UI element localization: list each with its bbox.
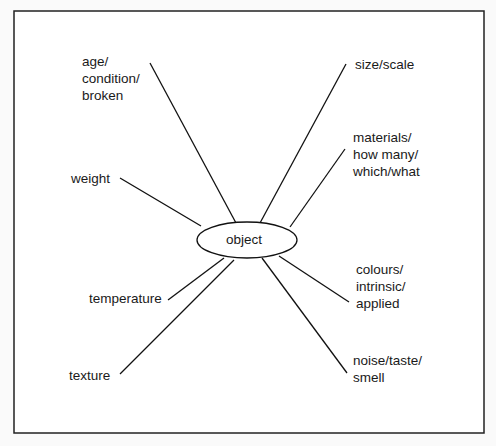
node-label: materials/ how many/ which/what [353, 129, 420, 180]
node-label: colours/ intrinsic/ applied [356, 261, 406, 312]
node-label: size/scale [355, 56, 414, 73]
node-label: weight [71, 170, 110, 187]
node-label: temperature [89, 290, 162, 307]
center-label: object [226, 231, 262, 248]
node-label: noise/taste/ smell [353, 352, 422, 386]
node-label: texture [69, 367, 110, 384]
node-label: age/ condition/ broken [82, 53, 140, 104]
